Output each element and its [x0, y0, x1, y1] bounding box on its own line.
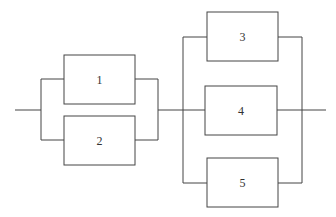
block-5-label: 5 [240, 176, 246, 190]
block-2-label: 2 [97, 134, 103, 148]
reliability-block-diagram: 1 2 3 4 5 [0, 0, 336, 217]
block-4-label: 4 [238, 104, 244, 118]
block-1-label: 1 [97, 73, 103, 87]
block-3-label: 3 [240, 30, 246, 44]
